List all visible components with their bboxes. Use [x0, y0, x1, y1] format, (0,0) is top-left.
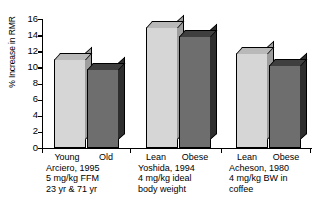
caption-line-dose: 4 mg/kg BW in [229, 173, 307, 184]
bar-acheson-1980-lean [236, 53, 268, 148]
rmr-bar-chart: % Increase in RMR 0246810121416 Young Ol… [0, 0, 318, 205]
group-label-arciero-1995: Young Old Arciero, 1995 5 mg/kg FFM 23 y… [46, 152, 124, 194]
bar-top-face [236, 47, 274, 54]
bar-acheson-1980-obese [269, 65, 301, 148]
bar-top-face [87, 63, 125, 70]
y-axis-title: % Increase in RMR [7, 0, 17, 116]
y-tick-mark [38, 67, 43, 68]
y-tick-label: 10 [27, 61, 38, 72]
y-tick-mark [38, 116, 43, 117]
bar-arciero-1995-old [87, 69, 119, 148]
group-categories: Young Old [46, 152, 124, 163]
caption-line-study: Yoshida, 1994 [138, 163, 216, 174]
y-tick-label: 14 [27, 29, 38, 40]
x-axis-line [42, 148, 312, 149]
y-tick-label: 2 [33, 125, 38, 136]
group-caption: Yoshida, 1994 4 mg/kg ideal body weight [138, 163, 216, 195]
x-tick [130, 148, 131, 153]
y-tick-mark [38, 132, 43, 133]
y-tick-mark [38, 84, 43, 85]
y-tick-label: 4 [33, 109, 38, 120]
caption-line-study: Acheson, 1980 [229, 163, 307, 174]
bar-yoshida-1994-obese [179, 36, 211, 148]
bar-yoshida-1994-lean [146, 27, 178, 148]
bar-label-lean: Lean [229, 152, 265, 163]
plot-area: 0246810121416 [42, 19, 312, 148]
x-tick [42, 148, 43, 153]
bar-top-face [146, 21, 184, 28]
caption-line-subjects: 23 yr & 71 yr [46, 184, 124, 195]
bar-label-obese: Obese [174, 152, 216, 163]
y-tick-label: 6 [33, 93, 38, 104]
bar-label-young: Young [46, 152, 88, 163]
y-tick-label: 0 [33, 142, 38, 153]
bar-label-obese: Obese [265, 152, 307, 163]
caption-line-study: Arciero, 1995 [46, 163, 124, 174]
bar-arciero-1995-young [54, 59, 86, 148]
bar-label-lean: Lean [138, 152, 174, 163]
y-tick-label: 8 [33, 77, 38, 88]
y-tick-label: 16 [27, 13, 38, 24]
caption-line-dose: 4 mg/kg ideal [138, 173, 216, 184]
group-categories: Lean Obese [229, 152, 307, 163]
caption-line-basis: body weight [138, 184, 216, 195]
x-tick [221, 148, 222, 153]
group-caption: Acheson, 1980 4 mg/kg BW in coffee [229, 163, 307, 195]
bar-top-face [269, 59, 307, 66]
y-tick-label: 12 [27, 45, 38, 56]
bar-side-face [210, 24, 217, 140]
y-tick-mark [38, 19, 43, 20]
group-caption: Arciero, 1995 5 mg/kg FFM 23 yr & 71 yr [46, 163, 124, 195]
group-label-acheson-1980: Lean Obese Acheson, 1980 4 mg/kg BW in c… [229, 152, 307, 194]
bar-label-old: Old [88, 152, 124, 163]
y-tick-mark [38, 35, 43, 36]
group-categories: Lean Obese [138, 152, 216, 163]
x-tick [310, 148, 311, 153]
y-tick-mark [38, 51, 43, 52]
caption-line-dose: 5 mg/kg FFM [46, 173, 124, 184]
caption-line-vehicle: coffee [229, 184, 307, 195]
bar-top-face [179, 30, 217, 37]
y-tick-mark [38, 100, 43, 101]
bar-top-face [54, 53, 92, 60]
group-label-yoshida-1994: Lean Obese Yoshida, 1994 4 mg/kg ideal b… [138, 152, 216, 194]
